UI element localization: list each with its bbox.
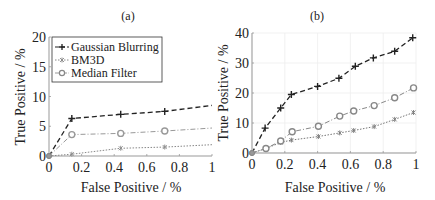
circle-marker-icon (371, 103, 377, 109)
x-tick-label: 0.4 (309, 157, 327, 172)
series-line (49, 145, 212, 156)
panel-b-series (250, 34, 417, 155)
x-tick-label: 0.8 (374, 157, 392, 172)
origin-marker-icon (250, 151, 255, 156)
circle-marker-icon (411, 85, 417, 91)
legend-label: Median Filter (71, 66, 137, 80)
legend-label: BM3D (71, 53, 105, 67)
circle-marker-icon (162, 128, 168, 134)
series-line (252, 88, 414, 153)
panel-b-xlabel: False Positive / % (285, 180, 386, 195)
y-tick-label: 30 (235, 56, 249, 71)
circle-marker-icon (118, 130, 124, 136)
panel-a-ylabel: True Positive / % (13, 48, 28, 145)
y-tick-label: 10 (32, 90, 46, 105)
y-tick-label: 10 (235, 116, 249, 131)
plus-marker-icon (314, 83, 321, 90)
circle-marker-icon (59, 70, 64, 75)
panel-b-title: (b) (310, 9, 324, 23)
panel-a-xlabel: False Positive / % (81, 180, 182, 195)
x-tick-label: 0.6 (342, 157, 360, 172)
star-marker-icon (338, 130, 342, 135)
y-tick-label: 20 (32, 30, 46, 45)
panel-a-series (47, 105, 212, 158)
plus-marker-icon (161, 108, 168, 115)
legend: Gaussian Blurring BM3D Median Filter (52, 37, 162, 82)
origin-marker-icon (47, 154, 52, 159)
y-tick-label: 5 (39, 119, 46, 134)
x-tick-label: 0.2 (276, 157, 294, 172)
plus-marker-icon (262, 125, 269, 132)
x-tick-label: 0.6 (138, 160, 156, 175)
chart-panel-b: (b) 00.20.40.60.81010203040 False Positi… (216, 9, 420, 195)
plus-marker-icon (370, 54, 377, 61)
series-line (252, 38, 413, 153)
circle-marker-icon (337, 113, 343, 119)
x-tick-label: 0.4 (105, 160, 123, 175)
x-tick-label: 0 (249, 157, 256, 172)
panel-b-ylabel: True Positive / % (216, 44, 231, 141)
x-tick-label: 0 (46, 160, 53, 175)
circle-marker-icon (263, 146, 269, 152)
circle-marker-icon (289, 129, 295, 135)
x-tick-label: 0.8 (171, 160, 189, 175)
legend-label: Gaussian Blurring (71, 40, 159, 54)
x-tick-label: 1 (413, 157, 420, 172)
y-tick-label: 0 (39, 149, 46, 164)
figure: (a) 00.20.40.60.8105101520 False Positiv… (0, 0, 435, 200)
chart-panel-a: (a) 00.20.40.60.8105101520 False Positiv… (13, 9, 216, 195)
series-line (252, 113, 414, 154)
y-tick-label: 40 (235, 26, 249, 41)
circle-marker-icon (69, 132, 75, 138)
panel-a-title: (a) (121, 9, 134, 23)
y-tick-label: 20 (235, 86, 249, 101)
x-tick-label: 1 (209, 160, 216, 175)
circle-marker-icon (392, 95, 398, 101)
circle-marker-icon (351, 108, 357, 114)
y-tick-label: 0 (242, 146, 249, 161)
plus-marker-icon (117, 111, 124, 118)
legend-item-gaussian: Gaussian Blurring (55, 40, 159, 54)
circle-marker-icon (278, 138, 284, 144)
y-tick-label: 15 (32, 60, 46, 75)
circle-marker-icon (315, 123, 321, 129)
plus-marker-icon (68, 115, 75, 122)
star-marker-icon (119, 146, 123, 151)
x-tick-label: 0.2 (73, 160, 91, 175)
